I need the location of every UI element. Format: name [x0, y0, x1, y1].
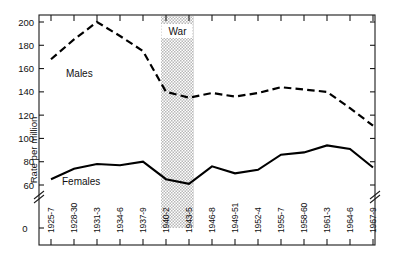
x-axis-tick-label: 1937-9 — [138, 207, 148, 233]
y-axis-tick-label: 180 — [18, 40, 34, 51]
war-shaded-region — [161, 16, 194, 228]
war-label-text: War — [169, 26, 188, 37]
x-axis-tick-label: 1925-7 — [46, 207, 56, 233]
x-axis-tick-label: 1964-6 — [345, 207, 355, 233]
x-axis-tick-label: 1934-6 — [115, 207, 125, 233]
x-axis-tick-label: 1961-3 — [322, 207, 332, 233]
chart-container: 6080100120140160180200 Rate per million … — [0, 0, 395, 253]
series-label-males: Males — [66, 68, 93, 79]
x-axis-tick-label: 1931-3 — [92, 207, 102, 233]
x-axis-tick-label: 1955-7 — [276, 207, 286, 233]
x-axis-tick-label: 1967-9 — [368, 207, 378, 233]
y-axis-tick-label: 140 — [18, 86, 34, 97]
war-annotation-label: War — [162, 24, 193, 38]
y-axis-zero-label: 0 — [22, 223, 27, 234]
x-axis-tick-label: 1949-51 — [230, 202, 240, 233]
x-axis-tick-label: 1940-2 — [161, 207, 171, 233]
y-axis-title: Rate per million — [28, 117, 39, 184]
y-axis-tick-label: 160 — [18, 63, 34, 74]
y-axis-tick-label: 200 — [18, 17, 34, 28]
x-axis-tick-label: 1958-60 — [299, 202, 309, 233]
series-label-females: Females — [62, 176, 100, 187]
rate-per-million-line-chart: 6080100120140160180200 Rate per million … — [0, 0, 395, 253]
x-axis-tick-label: 1946-8 — [207, 207, 217, 233]
x-axis-tick-label: 1952-4 — [253, 207, 263, 233]
x-axis-tick-label: 1943-5 — [184, 207, 194, 233]
x-axis-tick-label: 1928-30 — [69, 202, 79, 233]
